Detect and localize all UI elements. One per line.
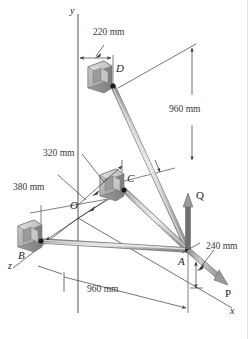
bracket-b: [18, 220, 42, 252]
dim-label-960-vertical: 960 mm: [169, 105, 200, 115]
dim-label-240: 240 mm: [206, 242, 237, 252]
axis-label-x: x: [230, 306, 234, 316]
point-c-dot: [121, 187, 126, 192]
misc-ticks: [155, 160, 160, 172]
force-label-q: Q: [196, 190, 204, 201]
dim-label-960-horizontal: 960 mm: [87, 285, 118, 295]
point-label-d: D: [116, 63, 124, 74]
dim-label-220: 220 mm: [93, 28, 124, 38]
point-label-a: A: [178, 256, 185, 267]
diagram-canvas: [0, 0, 250, 339]
force-p-arrow: [188, 250, 228, 285]
force-label-p: P: [225, 288, 231, 299]
dim-label-380: 380 mm: [13, 183, 44, 193]
dim-label-320: 320 mm: [43, 149, 74, 159]
point-b-dot: [38, 238, 43, 243]
point-d-dot: [110, 83, 115, 88]
page-edge-line: [247, 0, 248, 339]
cable-ac: [124, 189, 188, 250]
cable-ab: [42, 240, 188, 250]
point-label-o: O: [70, 200, 78, 211]
x-axis-line: [78, 218, 232, 308]
axis-label-y: y: [70, 6, 74, 16]
axis-label-z: z: [8, 261, 12, 271]
point-label-c: C: [127, 173, 134, 184]
dim-220-leader: [80, 45, 111, 58]
point-label-b: B: [18, 250, 25, 261]
statics-figure: y x z O A B C D 220 mm 960 mm 320 mm 380…: [0, 0, 250, 339]
bracket-c: [100, 169, 124, 201]
bracket-d: [88, 61, 112, 93]
